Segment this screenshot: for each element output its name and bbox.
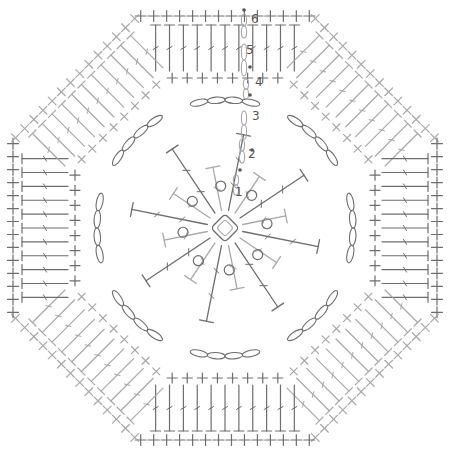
round-label-1: 1 (235, 185, 243, 199)
round-label-3: 3 (252, 109, 260, 123)
round-label-2: 2 (248, 147, 256, 161)
round-label-6: 6 (251, 12, 259, 26)
round-label-5: 5 (246, 43, 254, 57)
stitch-layer (8, 8, 443, 445)
magic-ring (211, 214, 239, 242)
round-label-4: 4 (255, 75, 263, 89)
crochet-chart: 1 2 3 4 5 6 (0, 0, 450, 449)
